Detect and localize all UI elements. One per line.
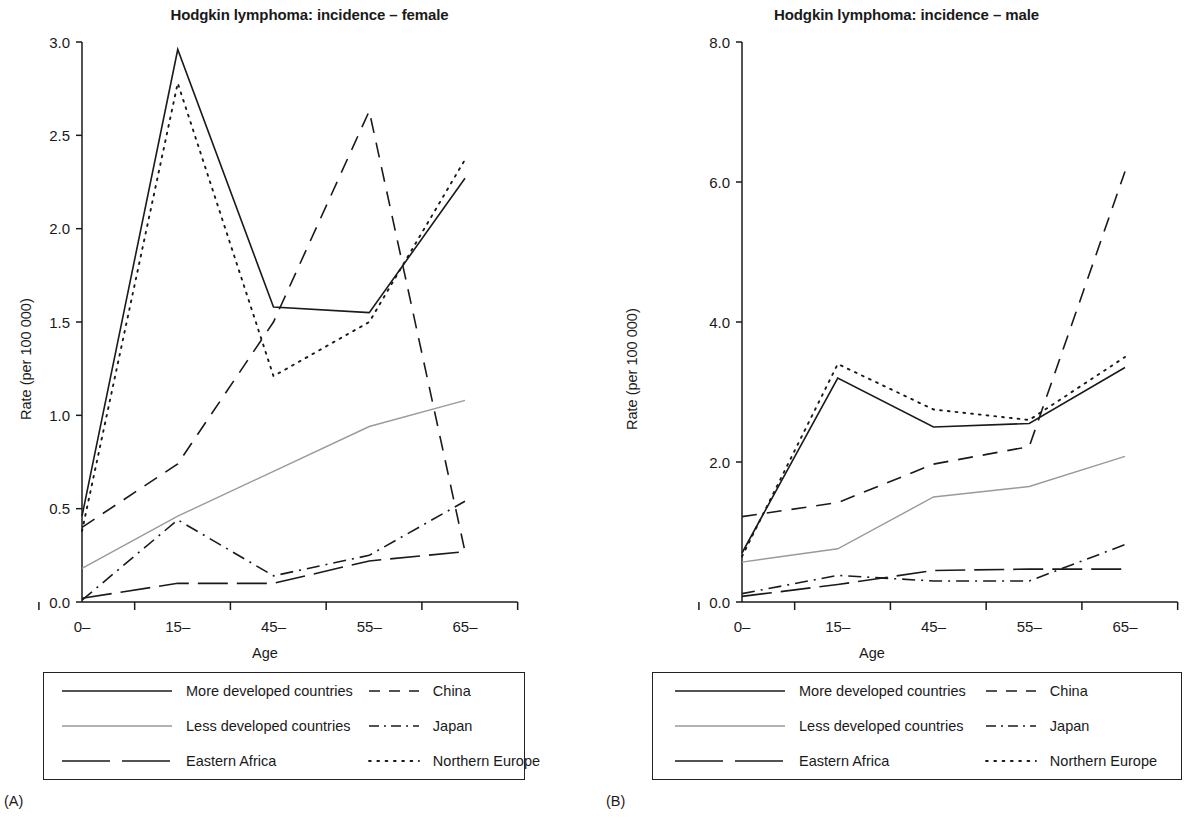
legend-sample-solid-a [58,684,176,698]
legend-item-china-a: China [353,673,540,708]
legend-label-eastern-africa-a: Eastern Africa [186,753,276,769]
legend-item-japan-a: Japan [353,708,540,743]
panel-b: Hodgkin lymphoma: incidence – male Rate … [602,0,1203,818]
legend-item-eastern-africa-a: Eastern Africa [44,744,353,779]
legend-label-japan-a: Japan [433,718,473,734]
y-tick-label: 6.0 [709,174,730,191]
x-tick-label: 55– [357,618,383,635]
plot-area-a: 0.00.51.01.52.02.53.00–15–45–55–65– [0,0,601,645]
legend-item-northern-europe-b: Northern Europe [966,744,1181,779]
legend-sample-dotted-a [367,754,423,768]
y-tick-label: 0.0 [709,594,730,611]
legend-sample-solid-light-b [671,719,789,733]
y-tick-label: 0.0 [49,594,70,611]
legend-label-more-developed-a: More developed countries [186,683,353,699]
x-tick-label: 15– [165,618,191,635]
series-line [82,501,465,600]
legend-item-less-developed-a: Less developed countries [44,708,353,743]
legend-label-northern-europe-b: Northern Europe [1050,753,1157,769]
legend-item-china-b: China [966,673,1181,708]
legend-a: More developed countries China Less deve… [43,672,525,780]
x-tick-label: 55– [1017,618,1043,635]
series-line [82,552,465,599]
y-tick-label: 3.0 [49,34,70,51]
x-tick-label: 65– [452,618,478,635]
y-tick-label: 0.5 [49,500,70,517]
y-tick-label: 4.0 [709,314,730,331]
x-tick-label: 65– [1112,618,1138,635]
y-tick-label: 2.0 [49,220,70,237]
series-line [742,456,1125,562]
legend-sample-solid-b [671,684,789,698]
plot-area-b: 0.02.04.06.08.00–15–45–55–65– [602,0,1203,645]
series-line [742,172,1125,517]
legend-sample-dotted-b [984,754,1040,768]
legend-label-china-a: China [433,683,471,699]
legend-label-northern-europe-a: Northern Europe [433,753,540,769]
x-tick-label: 0– [734,618,751,635]
series-line [742,368,1125,554]
series-line [82,49,465,516]
panel-label-a: (A) [4,793,23,809]
legend-label-japan-b: Japan [1050,718,1090,734]
legend-sample-dash-dot-b [984,719,1040,733]
legend-item-eastern-africa-b: Eastern Africa [653,744,966,779]
legend-sample-dashed-medium-a [367,684,423,698]
series-line [82,400,465,568]
legend-label-less-developed-a: Less developed countries [186,718,350,734]
x-axis-label-a: Age [0,645,530,661]
legend-sample-dashed-long-b [671,754,789,768]
legend-sample-dashed-medium-b [984,684,1040,698]
x-tick-label: 0– [74,618,91,635]
legend-item-japan-b: Japan [966,708,1181,743]
legend-label-more-developed-b: More developed countries [799,683,966,699]
legend-sample-dashed-long-a [58,754,176,768]
x-tick-label: 45– [261,618,287,635]
y-tick-label: 2.0 [709,454,730,471]
legend-sample-dash-dot-a [367,719,423,733]
x-tick-label: 15– [825,618,851,635]
y-tick-label: 2.5 [49,127,70,144]
legend-b: More developed countries China Less deve… [652,672,1182,780]
series-line [742,357,1125,557]
x-tick-label: 45– [921,618,947,635]
legend-item-northern-europe-a: Northern Europe [353,744,540,779]
y-tick-label: 1.5 [49,314,70,331]
legend-item-more-developed-b: More developed countries [653,673,966,708]
x-axis-label-b: Age [602,645,1142,661]
legend-sample-solid-light-a [58,719,176,733]
legend-label-eastern-africa-b: Eastern Africa [799,753,889,769]
series-line [82,111,465,552]
panel-a: Hodgkin lymphoma: incidence – female Rat… [0,0,601,818]
legend-item-less-developed-b: Less developed countries [653,708,966,743]
legend-label-less-developed-b: Less developed countries [799,718,963,734]
panel-label-b: (B) [606,793,625,809]
y-tick-label: 1.0 [49,407,70,424]
y-tick-label: 8.0 [709,34,730,51]
legend-item-more-developed-a: More developed countries [44,673,353,708]
legend-label-china-b: China [1050,683,1088,699]
